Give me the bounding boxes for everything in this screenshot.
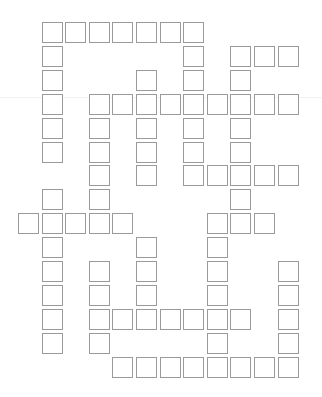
crossword-cell[interactable] <box>136 22 157 43</box>
crossword-cell[interactable] <box>42 237 63 258</box>
crossword-cell[interactable] <box>42 213 63 234</box>
crossword-cell[interactable] <box>183 118 204 139</box>
crossword-cell[interactable] <box>230 309 251 330</box>
crossword-cell[interactable] <box>42 261 63 282</box>
crossword-cell[interactable] <box>136 285 157 306</box>
crossword-cell[interactable] <box>278 261 299 282</box>
crossword-cell[interactable] <box>183 357 204 378</box>
crossword-cell[interactable] <box>136 165 157 186</box>
crossword-cell[interactable] <box>42 94 63 115</box>
crossword-cell[interactable] <box>254 46 275 67</box>
crossword-cell[interactable] <box>112 94 133 115</box>
crossword-cell[interactable] <box>89 261 110 282</box>
crossword-cell[interactable] <box>207 165 228 186</box>
crossword-cell[interactable] <box>42 285 63 306</box>
crossword-cell[interactable] <box>89 285 110 306</box>
crossword-cell[interactable] <box>230 213 251 234</box>
crossword-cell[interactable] <box>89 142 110 163</box>
crossword-cell[interactable] <box>136 237 157 258</box>
crossword-cell[interactable] <box>278 165 299 186</box>
crossword-cell[interactable] <box>207 261 228 282</box>
crossword-cell[interactable] <box>18 213 39 234</box>
crossword-cell[interactable] <box>42 46 63 67</box>
crossword-cell[interactable] <box>183 142 204 163</box>
crossword-cell[interactable] <box>278 309 299 330</box>
crossword-cell[interactable] <box>89 94 110 115</box>
crossword-cell[interactable] <box>160 357 181 378</box>
crossword-cell[interactable] <box>278 285 299 306</box>
crossword-cell[interactable] <box>230 357 251 378</box>
crossword-cell[interactable] <box>183 94 204 115</box>
crossword-cell[interactable] <box>207 309 228 330</box>
crossword-cell[interactable] <box>89 165 110 186</box>
crossword-cell[interactable] <box>254 357 275 378</box>
crossword-cell[interactable] <box>230 94 251 115</box>
crossword-cell[interactable] <box>160 94 181 115</box>
crossword-cell[interactable] <box>230 189 251 210</box>
crossword-cell[interactable] <box>207 357 228 378</box>
crossword-cell[interactable] <box>42 142 63 163</box>
crossword-cell[interactable] <box>42 309 63 330</box>
crossword-cell[interactable] <box>42 333 63 354</box>
crossword-cell[interactable] <box>136 261 157 282</box>
crossword-cell[interactable] <box>160 22 181 43</box>
crossword-cell[interactable] <box>136 118 157 139</box>
crossword-cell[interactable] <box>230 142 251 163</box>
crossword-cell[interactable] <box>254 165 275 186</box>
crossword-cell[interactable] <box>278 333 299 354</box>
crossword-cell[interactable] <box>183 309 204 330</box>
crossword-cell[interactable] <box>278 46 299 67</box>
crossword-cell[interactable] <box>278 94 299 115</box>
crossword-cell[interactable] <box>207 94 228 115</box>
crossword-grid <box>0 0 322 397</box>
crossword-cell[interactable] <box>136 70 157 91</box>
crossword-cell[interactable] <box>112 309 133 330</box>
crossword-cell[interactable] <box>65 213 86 234</box>
crossword-cell[interactable] <box>136 357 157 378</box>
crossword-cell[interactable] <box>89 213 110 234</box>
crossword-cell[interactable] <box>89 333 110 354</box>
crossword-cell[interactable] <box>230 165 251 186</box>
crossword-cell[interactable] <box>207 213 228 234</box>
crossword-cell[interactable] <box>230 70 251 91</box>
crossword-cell[interactable] <box>230 46 251 67</box>
crossword-cell[interactable] <box>207 237 228 258</box>
crossword-cell[interactable] <box>278 357 299 378</box>
crossword-cell[interactable] <box>207 285 228 306</box>
crossword-cell[interactable] <box>183 70 204 91</box>
crossword-cell[interactable] <box>42 189 63 210</box>
crossword-cell[interactable] <box>183 165 204 186</box>
crossword-cell[interactable] <box>89 189 110 210</box>
crossword-cell[interactable] <box>112 357 133 378</box>
crossword-cell[interactable] <box>42 70 63 91</box>
crossword-cell[interactable] <box>136 94 157 115</box>
crossword-cell[interactable] <box>183 22 204 43</box>
crossword-cell[interactable] <box>183 46 204 67</box>
crossword-cell[interactable] <box>65 22 86 43</box>
crossword-cell[interactable] <box>254 213 275 234</box>
crossword-cell[interactable] <box>42 118 63 139</box>
crossword-cell[interactable] <box>254 94 275 115</box>
crossword-cell[interactable] <box>207 333 228 354</box>
crossword-cell[interactable] <box>89 118 110 139</box>
crossword-cell[interactable] <box>112 22 133 43</box>
crossword-cell[interactable] <box>136 142 157 163</box>
crossword-cell[interactable] <box>112 213 133 234</box>
crossword-cell[interactable] <box>89 309 110 330</box>
crossword-cell[interactable] <box>160 309 181 330</box>
crossword-cell[interactable] <box>230 118 251 139</box>
crossword-cell[interactable] <box>42 22 63 43</box>
crossword-cell[interactable] <box>89 22 110 43</box>
crossword-cell[interactable] <box>136 309 157 330</box>
